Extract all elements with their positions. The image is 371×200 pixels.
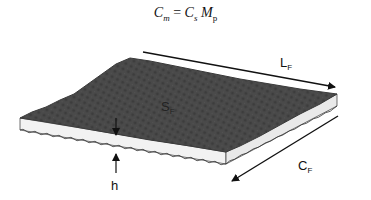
width-label: CF [298,158,312,175]
thickness-label: h [111,178,118,193]
length-label: LF [280,55,292,72]
slab-diagram: LF CF SF h [0,0,371,200]
